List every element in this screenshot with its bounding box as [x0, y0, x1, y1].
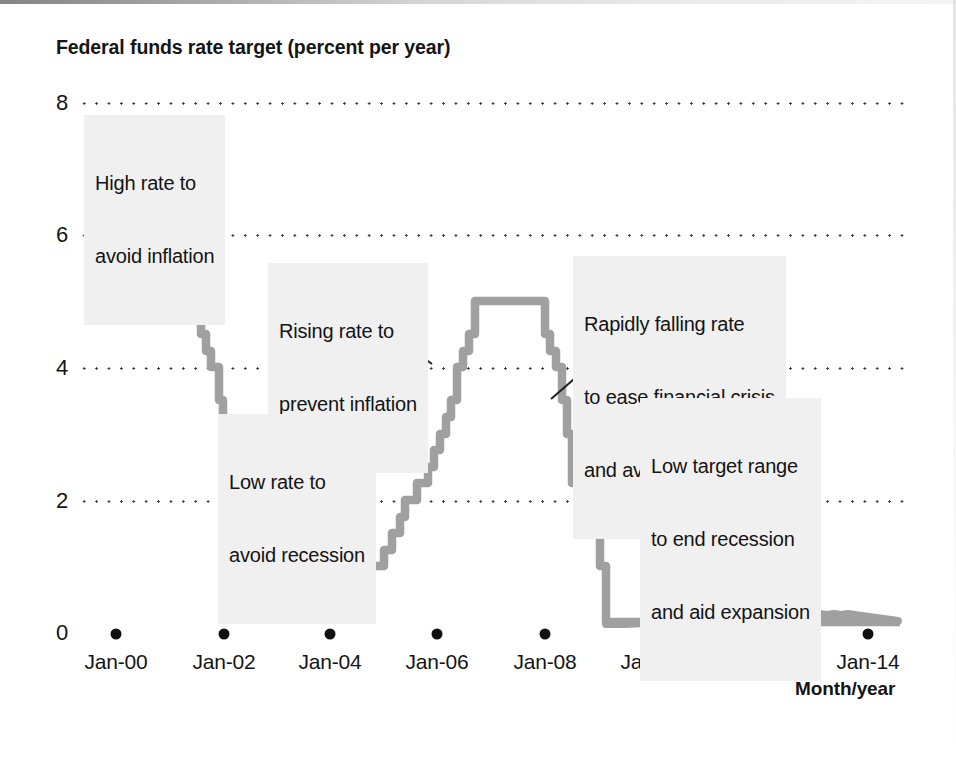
- xtick-label-jan-02: Jan-02: [192, 650, 255, 674]
- xtick-dot-jan-06: [432, 629, 443, 640]
- annotation-falling-rate-line1: Rapidly falling rate: [584, 312, 775, 336]
- annotation-low-range-line2: to end recession: [651, 527, 810, 551]
- annotation-low-range-line3: and aid expansion: [651, 600, 810, 624]
- xtick-dot-jan-14: [863, 629, 874, 640]
- xtick-label-jan-08: Jan-08: [513, 650, 576, 674]
- xtick-dot-jan-00: [111, 629, 122, 640]
- plot-area: 8 6 4 2 0 Jan-00 Jan-02 Jan-04 Jan-06 Ja…: [0, 0, 956, 761]
- annotation-low-rate-line2: avoid recession: [229, 543, 365, 567]
- chart-figure: Federal funds rate target (percent per y…: [0, 0, 956, 761]
- annotation-low-rate: Low rate to avoid recession: [218, 414, 376, 624]
- annotation-rising-rate-line1: Rising rate to: [279, 319, 417, 343]
- xtick-label-jan-04: Jan-04: [298, 650, 361, 674]
- xtick-label-jan-06: Jan-06: [405, 650, 468, 674]
- annotation-high-rate: High rate to avoid inflation: [84, 115, 225, 325]
- x-axis-title: Month/year: [795, 678, 895, 700]
- annotation-low-range-line1: Low target range: [651, 454, 810, 478]
- annotation-high-rate-line2: avoid inflation: [95, 244, 214, 268]
- xtick-dot-jan-08: [540, 629, 551, 640]
- annotation-low-rate-line1: Low rate to: [229, 470, 365, 494]
- annotation-low-target-range: Low target range to end recession and ai…: [640, 398, 821, 681]
- xtick-dot-jan-02: [219, 629, 230, 640]
- xtick-label-jan-00: Jan-00: [84, 650, 147, 674]
- annotation-high-rate-line1: High rate to: [95, 171, 214, 195]
- annotation-rising-rate-line2: prevent inflation: [279, 392, 417, 416]
- xtick-label-jan-14: Jan-14: [836, 650, 899, 674]
- xtick-dot-jan-04: [325, 629, 336, 640]
